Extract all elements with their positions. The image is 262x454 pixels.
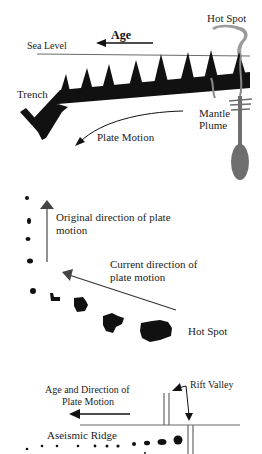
panel-hotspot-track-map: Original direction of plate motion Curre… (25, 196, 227, 342)
mantle-plume-label-line1: Mantle (199, 107, 230, 119)
hot-spot-label: Hot Spot (207, 12, 246, 24)
rift-valley-label: Rift Valley (190, 379, 233, 390)
mantle-plume-icon (229, 96, 252, 180)
age-label: Age (111, 28, 132, 42)
original-direction-arrow-icon (40, 200, 54, 262)
original-direction-label-line1: Original direction of plate (56, 211, 171, 223)
current-direction-label-line1: Current direction of (110, 258, 198, 270)
panel-hotspot-cross-section: Hot Spot Age Sea Level Trench (17, 12, 252, 180)
mantle-plume-label-line2: Plume (199, 119, 227, 131)
trench-label: Trench (17, 88, 48, 100)
current-direction-label-line2: plate motion (110, 271, 166, 283)
sea-level-line (37, 54, 250, 56)
hotspot-diagram: Hot Spot Age Sea Level Trench (0, 0, 262, 454)
old-seamount-dots (25, 196, 33, 264)
rift-valley-lines (164, 393, 193, 454)
island-chain (30, 288, 172, 342)
plate-motion-label: Plate Motion (97, 131, 155, 143)
age-direction-label-line1: Age and Direction of (45, 384, 130, 395)
original-direction-label-line2: motion (56, 224, 88, 236)
aseismic-ridge-label: Aseismic Ridge (47, 429, 117, 441)
volcanic-smoke-icon (212, 25, 248, 56)
sea-level-label: Sea Level (27, 40, 67, 51)
age-direction-label-line2: Plate Motion (62, 396, 114, 407)
panel-rift-aseismic-ridge: Age and Direction of Plate Motion Rift V… (26, 379, 240, 454)
hot-spot-map-label: Hot Spot (188, 325, 227, 337)
active-conduit (240, 56, 241, 96)
age-direction-arrow-icon (69, 409, 130, 419)
